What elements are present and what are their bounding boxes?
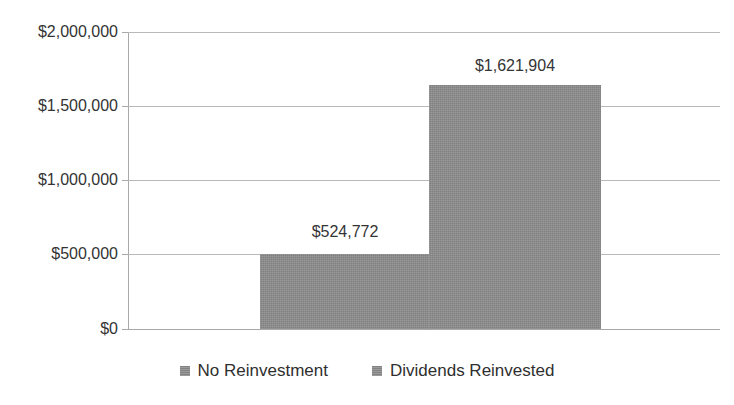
y-axis-labels: $2,000,000 $1,500,000 $1,000,000 $500,00…: [0, 0, 118, 405]
y-axis-tick-label-1500000: $1,500,000: [0, 98, 118, 114]
plot-area: [128, 32, 720, 329]
data-label-no-reinvestment: $524,772: [255, 224, 435, 240]
gridline-2000000: [128, 32, 720, 33]
legend-item-no-reinvestment[interactable]: No Reinvestment: [180, 362, 328, 379]
legend-label-dividends-reinvested: Dividends Reinvested: [390, 362, 554, 379]
data-label-dividends-reinvested: $1,621,904: [425, 58, 605, 74]
x-axis-baseline: [128, 329, 720, 330]
y-axis-tick-label-1000000: $1,000,000: [0, 172, 118, 188]
chart-legend: No Reinvestment Dividends Reinvested: [0, 362, 734, 379]
bar-dividends-reinvested: [429, 85, 601, 329]
legend-label-no-reinvestment: No Reinvestment: [198, 362, 328, 379]
bar-chart: $2,000,000 $1,500,000 $1,000,000 $500,00…: [0, 0, 734, 405]
gridline-1000000: [128, 180, 720, 181]
y-axis-tick-label-0: $0: [0, 321, 118, 337]
legend-swatch-icon: [372, 366, 382, 376]
y-axis-tick-label-2000000: $2,000,000: [0, 24, 118, 40]
legend-swatch-icon: [180, 366, 190, 376]
legend-item-dividends-reinvested[interactable]: Dividends Reinvested: [372, 362, 554, 379]
y-axis-tick-label-500000: $500,000: [0, 246, 118, 262]
chart-title-cropped: [180, 0, 600, 5]
gridline-1500000: [128, 106, 720, 107]
bar-no-reinvestment: [260, 254, 429, 329]
